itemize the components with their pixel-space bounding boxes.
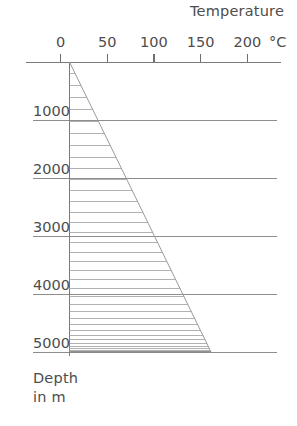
temperature-axis-ticks — [61, 54, 248, 62]
geothermal-gradient-figure: Temperature 0 50 100 150 200 °C 1000 200… — [0, 0, 297, 426]
gradient-wedge — [69, 62, 215, 352]
temperature-unit-label: °C — [269, 35, 286, 50]
y-tick-label-1000: 1000 — [33, 104, 70, 119]
temperature-axis — [26, 54, 281, 63]
x-tick-label-200: 200 — [233, 35, 261, 50]
depth-axis-title-line1: Depth — [33, 371, 78, 386]
wedge-hatching — [69, 74, 215, 352]
temperature-axis-title: Temperature — [190, 4, 284, 19]
y-tick-label-2000: 2000 — [33, 162, 70, 177]
wedge-right-edge — [70, 62, 212, 352]
y-tick-label-4000: 4000 — [33, 278, 70, 293]
y-tick-label-3000: 3000 — [33, 220, 70, 235]
y-tick-label-5000: 5000 — [33, 336, 70, 351]
x-tick-label-100: 100 — [140, 35, 168, 50]
plot-canvas — [0, 0, 297, 426]
x-tick-label-150: 150 — [187, 35, 215, 50]
x-tick-label-50: 50 — [98, 35, 116, 50]
depth-axis-title-line2: in m — [33, 390, 66, 405]
x-tick-label-0: 0 — [56, 35, 65, 50]
